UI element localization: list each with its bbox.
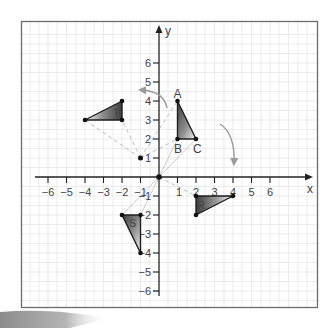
diagram-frame (22, 22, 318, 308)
page-shadow (0, 311, 110, 328)
x-tick-label: −6 (42, 186, 55, 198)
y-tick-label: 3 (145, 114, 151, 126)
y-tick-label: 6 (145, 57, 151, 69)
y-tick-label: 4 (145, 95, 151, 107)
x-axis (35, 174, 313, 181)
diagram-svg: −6 −5 −4 −3 −2 −1 1 2 3 4 5 6 6 5 4 3 2 … (0, 0, 334, 328)
y-tick-label: −1 (138, 190, 151, 202)
y-tick-label: 5 (145, 76, 151, 88)
center-of-rotation-point (138, 156, 143, 161)
triangle-abc: A B C (174, 87, 203, 156)
x-tick-label: 6 (267, 186, 273, 198)
vertex-c-label: C (193, 142, 202, 156)
x-tick-label: −4 (79, 186, 92, 198)
origin-point (156, 174, 162, 180)
x-axis-label: x (307, 182, 313, 196)
y-tick-label: 1 (145, 152, 151, 164)
triangle-r-label: R (197, 199, 205, 211)
y-tick-label: −6 (138, 285, 151, 297)
y-axis (153, 25, 163, 296)
x-tick-label: 5 (248, 186, 254, 198)
x-tick-label: 1 (176, 186, 182, 198)
vertex-b-label: B (174, 142, 182, 156)
grid (22, 22, 317, 307)
coordinate-diagram: −6 −5 −4 −3 −2 −1 1 2 3 4 5 6 6 5 4 3 2 … (0, 0, 334, 328)
x-tick-label: −2 (116, 186, 129, 198)
y-axis-label: y (165, 24, 171, 38)
triangle-s-label: S (129, 217, 136, 229)
vertex-a-label: A (174, 87, 182, 101)
y-tick-label: 2 (145, 133, 151, 145)
x-tick-label: −3 (97, 186, 110, 198)
x-tick-label: −5 (60, 186, 73, 198)
triangle-t-label: T (113, 107, 120, 119)
y-tick-label: −5 (138, 266, 151, 278)
